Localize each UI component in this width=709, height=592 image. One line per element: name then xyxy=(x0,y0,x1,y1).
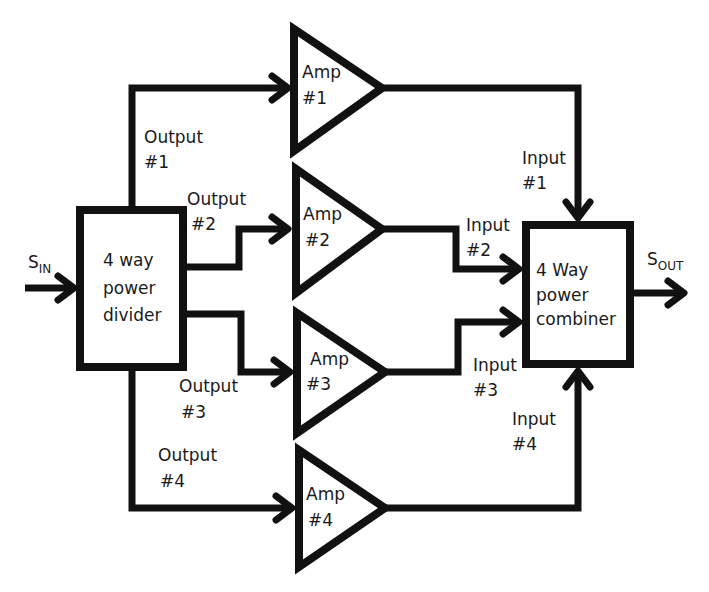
combiner-label-line1: 4 Way xyxy=(536,260,588,280)
svg-text:#1: #1 xyxy=(302,88,327,108)
divider-label-line3: divider xyxy=(103,305,162,325)
output-1-label-line1: Output xyxy=(144,127,203,147)
svg-text:Amp: Amp xyxy=(306,484,345,504)
input-2-label-line1: Input xyxy=(466,215,510,235)
input-1-label-line1: Input xyxy=(522,148,566,168)
input-3-label-line2: #3 xyxy=(473,380,498,400)
combiner-label-line3: combiner xyxy=(536,309,616,329)
block-diagram: SIN 4 way power divider Output #1 Output… xyxy=(0,0,709,592)
output-signal-arrow xyxy=(630,281,684,305)
input-2-wire xyxy=(382,229,519,281)
svg-text:#3: #3 xyxy=(306,374,331,394)
svg-text:Amp: Amp xyxy=(303,204,342,224)
output-2-label-line1: Output xyxy=(187,189,246,209)
output-1-label-line2: #1 xyxy=(144,152,169,172)
input-1-label-line2: #1 xyxy=(522,173,547,193)
input-4-label-line1: Input xyxy=(512,409,556,429)
input-2-label-line2: #2 xyxy=(466,240,491,260)
input-4-label-line2: #4 xyxy=(512,434,537,454)
svg-text:Amp: Amp xyxy=(310,349,349,369)
amp-triangle-icon xyxy=(297,313,385,433)
svg-text:#2: #2 xyxy=(305,230,330,250)
output-3-label-line1: Output xyxy=(179,376,238,396)
input-signal-arrow xyxy=(25,276,74,300)
amplifier-3: Amp #3 xyxy=(297,313,385,433)
amplifier-1: Amp #1 xyxy=(294,29,382,151)
amp-triangle-icon xyxy=(299,450,385,567)
input-signal-label: SIN xyxy=(28,252,51,276)
output-4-label-line2: #4 xyxy=(160,471,185,491)
output-signal-label: SOUT xyxy=(647,249,684,273)
output-2-label-line2: #2 xyxy=(191,214,216,234)
amplifier-4: Amp #4 xyxy=(299,450,385,567)
combiner-label-line2: power xyxy=(536,285,589,305)
svg-text:Amp: Amp xyxy=(302,62,341,82)
divider-label-line2: power xyxy=(103,278,156,298)
amplifier-2: Amp #2 xyxy=(296,169,382,293)
divider-label-line1: 4 way xyxy=(103,250,154,270)
input-3-label-line1: Input xyxy=(473,355,517,375)
output-3-label-line2: #3 xyxy=(181,402,206,422)
svg-text:#4: #4 xyxy=(308,510,333,530)
output-3-wire xyxy=(183,314,290,384)
output-4-label-line1: Output xyxy=(158,445,217,465)
